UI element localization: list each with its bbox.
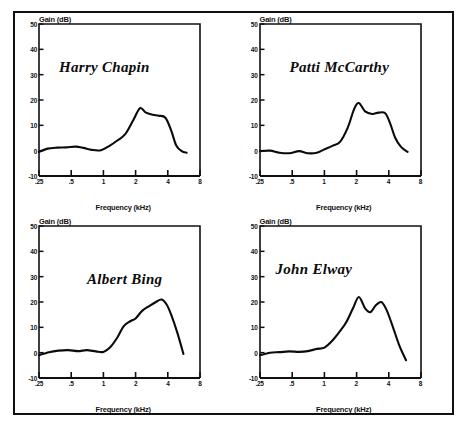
y-tick-label: 20 <box>15 97 37 104</box>
y-tick-label: 30 <box>15 273 37 280</box>
y-axis-title: Gain (dB) <box>260 217 292 226</box>
y-tick-label: 40 <box>15 46 37 53</box>
x-tick-label: 8 <box>414 380 428 387</box>
y-tick-label: 0 <box>15 147 37 154</box>
x-tick-label: .5 <box>285 178 299 185</box>
plot-area: 50403020100-10.25.51248 <box>260 24 421 176</box>
panel-title: Albert Bing <box>87 271 162 288</box>
y-tick-label: 30 <box>236 273 258 280</box>
x-tick-label: .25 <box>32 380 46 387</box>
plot-frame <box>260 226 421 378</box>
y-tick-label: 10 <box>236 122 258 129</box>
response-curve <box>260 103 408 153</box>
y-tick-label: 40 <box>15 248 37 255</box>
y-tick-label: 50 <box>15 223 37 230</box>
x-tick-label: 4 <box>161 178 175 185</box>
plot-area: 50403020100-10.25.51248 <box>260 226 421 378</box>
y-tick-label: 0 <box>15 349 37 356</box>
y-tick-label: 0 <box>236 349 258 356</box>
y-tick-label: 40 <box>236 46 258 53</box>
x-tick-label: 4 <box>381 380 395 387</box>
x-tick-label: 2 <box>349 380 363 387</box>
plot-svg <box>260 226 435 392</box>
y-tick-label: 0 <box>236 147 258 154</box>
x-tick-label: 8 <box>414 178 428 185</box>
y-axis-title: Gain (dB) <box>39 217 71 226</box>
x-tick-label: .5 <box>285 380 299 387</box>
x-axis-title: Frequency (kHz) <box>234 203 455 212</box>
x-tick-label: 1 <box>317 380 331 387</box>
x-tick-label: 2 <box>129 178 143 185</box>
chart-panel-albert-bing: Gain (dB) 50403020100-10.25.51248 Albert… <box>13 213 234 415</box>
plot-area: 50403020100-10.25.51248 <box>39 24 200 176</box>
y-axis-title: Gain (dB) <box>39 15 71 24</box>
panel-grid: Gain (dB) 50403020100-10.25.51248 Harry … <box>13 11 454 415</box>
x-tick-label: 2 <box>349 178 363 185</box>
response-curve <box>260 297 406 360</box>
y-tick-label: 10 <box>15 122 37 129</box>
panel-title: Harry Chapin <box>59 59 150 76</box>
y-tick-label: 10 <box>15 324 37 331</box>
chart-panel-patti-mccarthy: Gain (dB) 50403020100-10.25.51248 Patti … <box>234 11 455 213</box>
y-tick-label: 50 <box>236 21 258 28</box>
x-axis-title: Frequency (kHz) <box>234 405 455 414</box>
chart-panel-harry-chapin: Gain (dB) 50403020100-10.25.51248 Harry … <box>13 11 234 213</box>
x-tick-label: 2 <box>129 380 143 387</box>
y-tick-label: 20 <box>15 299 37 306</box>
plot-svg <box>39 226 214 392</box>
y-tick-label: 50 <box>15 21 37 28</box>
x-tick-label: .25 <box>32 178 46 185</box>
y-tick-label: 50 <box>236 223 258 230</box>
x-tick-label: .5 <box>64 380 78 387</box>
response-curve <box>39 299 183 355</box>
y-axis-title: Gain (dB) <box>260 15 292 24</box>
plot-svg <box>39 24 214 190</box>
plot-svg <box>260 24 435 190</box>
x-tick-label: 8 <box>193 178 207 185</box>
x-tick-label: 8 <box>193 380 207 387</box>
plot-area: 50403020100-10.25.51248 <box>39 226 200 378</box>
x-tick-label: .25 <box>253 380 267 387</box>
plot-frame <box>39 226 200 378</box>
panel-title: Patti McCarthy <box>290 59 390 76</box>
x-tick-label: .25 <box>253 178 267 185</box>
y-tick-label: 30 <box>15 71 37 78</box>
x-tick-label: 1 <box>96 380 110 387</box>
x-tick-label: 4 <box>161 380 175 387</box>
y-tick-label: 30 <box>236 71 258 78</box>
y-tick-label: 20 <box>236 299 258 306</box>
x-axis-title: Frequency (kHz) <box>13 203 234 212</box>
y-tick-label: 20 <box>236 97 258 104</box>
chart-panel-john-elway: Gain (dB) 50403020100-10.25.51248 John E… <box>234 213 455 415</box>
x-tick-label: 1 <box>96 178 110 185</box>
y-tick-label: 10 <box>236 324 258 331</box>
response-curve <box>39 108 187 153</box>
y-tick-label: 40 <box>236 248 258 255</box>
x-tick-label: .5 <box>64 178 78 185</box>
x-tick-label: 4 <box>381 178 395 185</box>
plot-frame <box>39 24 200 176</box>
x-axis-title: Frequency (kHz) <box>13 405 234 414</box>
x-tick-label: 1 <box>317 178 331 185</box>
panel-title: John Elway <box>276 261 353 278</box>
figure-page: Gain (dB) 50403020100-10.25.51248 Harry … <box>0 0 470 429</box>
